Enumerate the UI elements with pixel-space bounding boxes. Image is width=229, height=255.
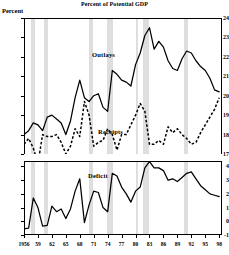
y-tick	[21, 154, 24, 155]
y-tick	[21, 221, 24, 222]
y-tick	[21, 76, 24, 77]
y-tick-label: 20	[211, 93, 229, 99]
x-tick-label: 92	[189, 241, 195, 247]
y-tick-label: 4	[211, 163, 229, 169]
x-tick	[52, 235, 53, 238]
x-tick	[24, 235, 25, 238]
x-tick-label: 89	[175, 241, 181, 247]
x-tick-label: 71	[91, 241, 97, 247]
x-tick	[219, 235, 220, 238]
y-tick	[21, 37, 24, 38]
x-tick-label: 77	[119, 241, 125, 247]
y-tick-label: 24	[211, 15, 229, 21]
outlays-series-label: Outlays	[92, 51, 115, 58]
y-tick-label: 23	[211, 34, 229, 40]
receipts-series-label: Receipts	[98, 128, 123, 135]
x-tick	[80, 235, 81, 238]
x-tick-label: 80	[133, 241, 139, 247]
y-tick-label: 19	[211, 112, 229, 118]
x-tick-label: 95	[203, 241, 209, 247]
y-tick	[21, 18, 24, 19]
x-tick	[149, 235, 150, 238]
y-tick	[21, 96, 24, 97]
y-tick-label: 3	[211, 177, 229, 183]
x-tick-label: 68	[77, 241, 83, 247]
y-tick-label: 0	[211, 218, 229, 224]
bottom-panel-frame	[24, 161, 222, 235]
y-tick	[21, 180, 24, 181]
x-tick-label: 98	[216, 241, 222, 247]
x-tick-label: 59	[35, 241, 41, 247]
x-tick	[191, 235, 192, 238]
x-tick	[66, 235, 67, 238]
x-tick	[122, 235, 123, 238]
y-tick	[21, 135, 24, 136]
y-tick-label: 17	[211, 151, 229, 157]
x-tick	[205, 235, 206, 238]
x-tick-label: 83	[147, 241, 153, 247]
chart-title: Percent of Potential GDP	[0, 0, 229, 8]
y-tick	[21, 166, 24, 167]
x-tick	[38, 235, 39, 238]
x-tick-label: 65	[63, 241, 69, 247]
y-tick	[21, 194, 24, 195]
chart-root: Percent of Potential GDP Percent 1718192…	[0, 0, 229, 255]
y-tick-label: 21	[211, 73, 229, 79]
y-tick	[21, 57, 24, 58]
x-tick-label: 1956	[19, 241, 30, 247]
deficit-series-label: Deficit	[88, 172, 108, 179]
x-tick	[136, 235, 137, 238]
x-tick	[108, 235, 109, 238]
x-tick	[163, 235, 164, 238]
x-tick-label: 74	[105, 241, 111, 247]
y-tick-label: 1	[211, 205, 229, 211]
y-tick	[21, 208, 24, 209]
y-tick	[21, 115, 24, 116]
y-axis-unit-label: Percent	[2, 7, 23, 14]
x-tick-label: 86	[161, 241, 167, 247]
x-tick	[94, 235, 95, 238]
x-tick-label: 62	[49, 241, 55, 247]
y-tick-label: 22	[211, 54, 229, 60]
y-tick-label: 2	[211, 191, 229, 197]
x-tick	[177, 235, 178, 238]
y-tick-label: 18	[211, 132, 229, 138]
